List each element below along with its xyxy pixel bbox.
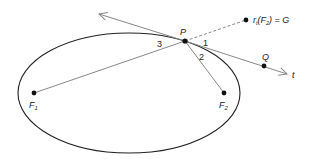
angle-label-3: 3 (157, 39, 162, 49)
segment-f1-p (34, 41, 185, 93)
label-f1: F1 (29, 100, 38, 111)
label-g: rt(F2) = G (253, 15, 289, 26)
ellipse-diagram: P Q t F1 F2 rt(F2) = G 1 2 3 (0, 0, 311, 159)
point-f1 (32, 91, 37, 96)
ellipse (18, 33, 240, 153)
point-q (262, 64, 267, 69)
segment-p-g-dashed (185, 20, 246, 41)
angle-label-1: 1 (203, 38, 208, 48)
point-g (244, 18, 249, 23)
label-t: t (292, 70, 295, 80)
point-p (182, 38, 187, 43)
label-p: P (180, 27, 186, 37)
label-q: Q (262, 52, 269, 62)
label-f2: F2 (219, 100, 229, 111)
angle-label-2: 2 (199, 52, 204, 62)
tangent-line-left (99, 14, 185, 41)
point-f2 (222, 91, 227, 96)
